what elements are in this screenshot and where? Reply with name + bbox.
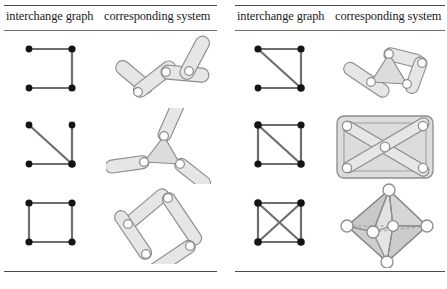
table-rule-header	[4, 30, 217, 31]
table-panel-left: interchange graph corresponding system	[0, 0, 219, 289]
table-body-right	[231, 32, 447, 270]
column-header-interchange-graph: interchange graph	[6, 9, 93, 24]
table-header-row: interchange graph corresponding system	[0, 9, 219, 29]
column-header-interchange-graph: interchange graph	[237, 9, 324, 24]
table-rule-bottom	[4, 271, 217, 272]
graph-svg	[243, 114, 339, 176]
graph-complete-graph-k4	[243, 192, 339, 254]
table-header-row: interchange graph corresponding system	[231, 9, 447, 29]
system-open-chain-four-bars	[108, 34, 212, 104]
table-panel-right: interchange graph corresponding system	[231, 0, 447, 289]
table-rule-header	[235, 30, 445, 31]
system-four-bar-closed-loop	[106, 184, 214, 264]
graph-triangle-with-pendant-edge	[243, 38, 339, 100]
graph-svg	[14, 38, 110, 100]
system-svg	[331, 182, 443, 268]
system-svg	[333, 36, 443, 102]
table-rule-bottom	[235, 271, 445, 272]
system-rectangular-plate-with-diagonals	[331, 110, 443, 184]
graph-four-cycle	[14, 192, 110, 254]
graph-svg	[14, 114, 110, 176]
system-svg	[106, 184, 214, 264]
system-svg	[106, 108, 214, 184]
table-rule-top	[4, 5, 217, 6]
system-svg	[108, 34, 212, 104]
column-header-corresponding-system: corresponding system	[104, 9, 210, 24]
interchange-graph-figure: interchange graph corresponding system	[0, 0, 447, 289]
graph-star-three-edges	[14, 114, 110, 176]
graph-path-four-vertices	[14, 38, 110, 100]
graph-four-cycle-with-one-diagonal	[243, 114, 339, 176]
system-triangle-plate-with-arm-and-loop	[333, 36, 443, 102]
column-header-corresponding-system: corresponding system	[335, 9, 441, 24]
graph-svg	[243, 192, 339, 254]
system-octahedral-framework	[331, 182, 443, 268]
system-triangle-plate-three-arms	[106, 108, 214, 184]
table-rule-top	[235, 5, 445, 6]
table-body-left	[0, 32, 219, 270]
graph-svg	[243, 38, 339, 100]
system-svg	[331, 110, 443, 184]
graph-svg	[14, 192, 110, 254]
